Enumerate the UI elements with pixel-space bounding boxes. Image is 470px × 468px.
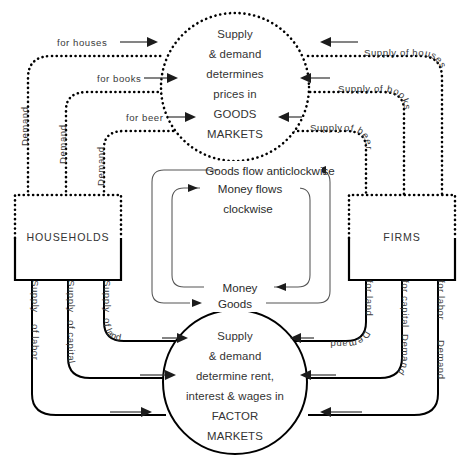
demand-capital-label: Demand [396, 334, 411, 378]
demand-factors-labels: Demand for land Demand for capital Deman… [290, 280, 447, 417]
goods-market-line-1: Supply [217, 28, 253, 40]
money-bottom-arrowhead [276, 283, 286, 291]
firms-label: FIRMS [383, 231, 420, 243]
supply-beer-label: Supply [310, 122, 343, 133]
goods-bottom-label: Goods [218, 297, 252, 310]
supply-books-tail: of books [374, 83, 413, 110]
supply-capital-tail: of capital [66, 320, 77, 365]
goods-market-circle[interactable]: Supply & demand determines prices in GOO… [161, 13, 309, 161]
demand-land-label: Demand [330, 329, 373, 350]
demand-beer-label: Demand [95, 146, 106, 186]
supply-books-path [296, 92, 404, 196]
goods-bottom-arrowhead [192, 299, 202, 307]
money-clockwise-arrowhead [188, 184, 198, 192]
goods-market-line-5: GOODS [214, 108, 257, 120]
demand-capital-tail: for capital [400, 280, 411, 328]
demand-houses-tail: for houses [57, 37, 107, 48]
supply-books-label: Supply [338, 83, 371, 94]
money-clockwise-label-1: Money flows [218, 182, 283, 195]
goods-anticlockwise-label: Goods flow anticlockwise [205, 164, 335, 177]
goods-market-line-3: determines [206, 68, 264, 80]
factor-market-line-3: determine rent, [196, 370, 274, 382]
demand-labor-tail: for labor [436, 280, 447, 320]
supply-land-tail: of land [102, 318, 123, 343]
money-bottom-label: Money [223, 281, 258, 294]
supply-houses-arrowhead [320, 37, 331, 47]
circulation-labels: Goods flow anticlockwise Money flows clo… [200, 161, 335, 312]
supply-land-label: Supply [102, 280, 113, 313]
factor-market-line-6: MARKETS [207, 430, 263, 442]
households-label: HOUSEHOLDS [26, 231, 109, 243]
demand-books-tail: for books [97, 73, 141, 84]
demand-labor-label: Demand [436, 340, 447, 380]
factor-market-line-2: & demand [209, 350, 262, 362]
supply-houses-tail: of houses [400, 47, 449, 70]
households-box[interactable]: HOUSEHOLDS [15, 195, 121, 280]
factor-market-line-5: FACTOR [212, 410, 259, 422]
demand-books-path [66, 92, 178, 196]
demand-beer-tail: for beer [126, 112, 164, 123]
firms-box[interactable]: FIRMS [349, 195, 455, 280]
factor-market-line-4: interest & wages in [186, 390, 284, 402]
supply-beer-tail: of beer [344, 122, 375, 150]
demand-beer-path [104, 131, 194, 196]
supply-houses-label: Supply [364, 47, 397, 58]
supply-capital-label: Supply [66, 280, 77, 313]
demand-land-tail: for land [364, 280, 375, 316]
supply-labor-path [32, 278, 166, 415]
money-clockwise-label-2: clockwise [223, 202, 273, 215]
factor-market-circle[interactable]: Supply & demand determine rent, interest… [163, 310, 307, 454]
factor-market-line-1: Supply [217, 330, 253, 342]
supply-labor-tail: of labor [30, 324, 41, 361]
goods-market-line-4: prices in [213, 88, 256, 100]
demand-houses-arrowhead [147, 37, 158, 47]
supply-labor-label: Supply [30, 280, 41, 313]
circular-flow-diagram: HOUSEHOLDS FIRMS Supply & demand determi… [0, 0, 470, 468]
demand-houses-label: Demand [19, 106, 30, 146]
goods-market-line-2: & demand [209, 48, 262, 60]
demand-books-label: Demand [57, 124, 68, 164]
goods-market-line-6: MARKETS [207, 128, 263, 140]
